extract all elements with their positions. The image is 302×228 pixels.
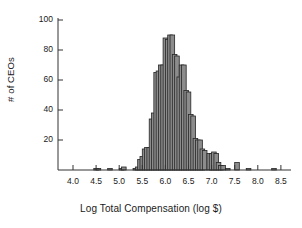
x-axis-title: Log Total Compensation (log $) — [0, 203, 302, 214]
histogram-figure: # of CEOs Log Total Compensation (log $)… — [0, 0, 302, 228]
x-tick-label: 7.0 — [199, 176, 225, 186]
y-tick-label: 80 — [27, 44, 53, 54]
x-tick-label: 6.5 — [176, 176, 202, 186]
x-tick-label: 8.5 — [268, 176, 294, 186]
y-axis-ticks — [58, 20, 63, 140]
x-tick-label: 8.0 — [245, 176, 271, 186]
x-tick-label: 4.0 — [60, 176, 86, 186]
x-tick-label: 7.5 — [222, 176, 248, 186]
y-tick-label: 60 — [27, 74, 53, 84]
x-tick-label: 5.0 — [106, 176, 132, 186]
x-tick-label: 4.5 — [83, 176, 109, 186]
x-tick-label: 6.0 — [152, 176, 178, 186]
y-tick-label: 40 — [27, 104, 53, 114]
histogram-plot-area — [0, 0, 302, 228]
histogram-bar — [221, 166, 226, 171]
histogram-bar — [202, 151, 207, 171]
histogram-bar — [235, 163, 240, 171]
y-axis-title: # of CEOs — [5, 44, 16, 116]
y-tick-label: 20 — [27, 134, 53, 144]
histogram-bars — [94, 35, 276, 170]
y-tick-label: 100 — [27, 14, 53, 24]
x-tick-label: 5.5 — [129, 176, 155, 186]
